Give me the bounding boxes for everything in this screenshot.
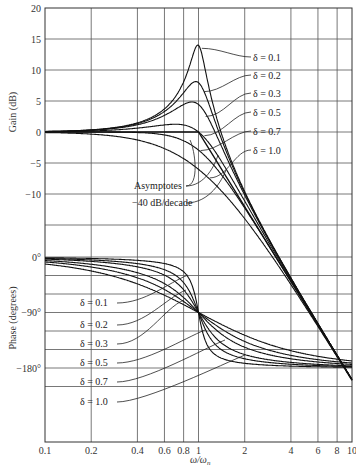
x-tick-label: 0.6: [158, 445, 171, 456]
x-tick-label: 0.4: [131, 445, 144, 456]
gain-tick-label: 20: [31, 3, 41, 14]
phase-leader-line: [117, 300, 184, 344]
slope-label: −40 dB/decade: [132, 197, 193, 208]
bode-plot: 20151050−5−10 0°−90°−180° 0.10.20.40.60.…: [0, 0, 356, 468]
phase-leader-line: [117, 330, 205, 363]
gain-damping-label: δ = 0.1: [253, 52, 281, 63]
x-axis-title: ω/ωn: [190, 454, 211, 467]
phase-damping-label: δ = 0.3: [80, 338, 108, 349]
gain-damping-labels: δ = 0.1δ = 0.2δ = 0.3δ = 0.5δ = 0.7δ = 1…: [253, 52, 281, 156]
gain-damping-label: δ = 0.7: [253, 126, 281, 137]
phase-leader-line: [117, 275, 188, 303]
x-axis-title-sub: n: [207, 459, 211, 467]
asymptote-leader: [186, 155, 218, 186]
x-tick-label: 4: [288, 445, 293, 456]
gain-tick-label: −10: [25, 189, 41, 200]
gain-leader-line: [202, 48, 251, 57]
phase-damping-label: δ = 0.5: [80, 357, 108, 368]
slope-text: 40 dB/decade: [138, 197, 193, 208]
gain-damping-label: δ = 0.2: [253, 70, 281, 81]
phase-damping-label: δ = 0.7: [80, 376, 108, 387]
gain-tick-label: 15: [31, 34, 41, 45]
phase-damping-label: δ = 0.1: [80, 297, 108, 308]
phase-damping-labels: δ = 0.1δ = 0.2δ = 0.3δ = 0.5δ = 0.7δ = 1…: [80, 297, 108, 407]
gain-damping-label: δ = 0.5: [253, 107, 281, 118]
x-tick-label: 0.1: [39, 445, 52, 456]
phase-axis-ticks: 0°−90°−180°: [16, 252, 41, 374]
gain-damping-label: δ = 1.0: [253, 145, 281, 156]
phase-leader-line: [117, 290, 186, 325]
gain-damping-label: δ = 0.3: [253, 88, 281, 99]
x-tick-label: 0.8: [177, 445, 190, 456]
asymptotes-label: Asymptotes: [134, 180, 182, 191]
gain-axis-ticks: 20151050−5−10: [25, 3, 41, 200]
x-axis-title-main: ω/ω: [190, 454, 207, 465]
phase-tick-label: −90°: [21, 307, 41, 318]
x-tick-label: 8: [335, 445, 340, 456]
gain-leader-line: [204, 75, 251, 92]
gain-axis-title: Gain (dB): [7, 92, 19, 132]
gain-tick-label: 0: [36, 127, 41, 138]
gain-tick-label: 10: [31, 65, 41, 76]
phase-damping-label: δ = 1.0: [80, 396, 108, 407]
phase-axis-title: Phase (degrees): [7, 286, 19, 349]
x-tick-label: 10: [347, 445, 356, 456]
gain-tick-label: 5: [36, 96, 41, 107]
x-tick-label: 0.2: [85, 445, 98, 456]
phase-damping-label: δ = 0.2: [80, 319, 108, 330]
x-tick-label: 2: [242, 445, 247, 456]
gain-tick-label: −5: [30, 158, 41, 169]
x-tick-label: 6: [315, 445, 320, 456]
phase-tick-label: −180°: [16, 363, 41, 374]
phase-tick-label: 0°: [32, 252, 41, 263]
